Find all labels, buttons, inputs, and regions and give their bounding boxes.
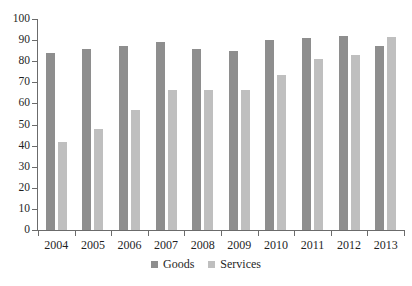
y-axis-tick (32, 82, 37, 83)
x-axis-tick (367, 231, 368, 236)
y-axis-tick-label: 30 (0, 161, 30, 172)
bar-goods-2008 (192, 49, 201, 230)
x-axis-tick-label-2010: 2010 (258, 239, 295, 252)
bar-goods-2005 (82, 49, 91, 230)
bar-services-2012 (351, 55, 360, 230)
bar-services-2005 (94, 129, 103, 230)
y-axis-tick (32, 188, 37, 189)
x-axis-tick (331, 231, 332, 236)
y-axis-tick-label: 80 (0, 55, 30, 66)
y-axis-tick-label: 20 (0, 182, 30, 193)
y-axis-tick-label: 90 (0, 34, 30, 45)
legend-item-goods[interactable]: Goods (151, 258, 194, 271)
bar-goods-2004 (46, 53, 55, 230)
bar-goods-2011 (302, 38, 311, 230)
y-axis-tick-label: 60 (0, 97, 30, 108)
x-axis-tick (258, 231, 259, 236)
bar-services-2008 (204, 90, 213, 230)
bar-services-2006 (131, 110, 140, 230)
legend-label-services: Services (220, 258, 261, 271)
y-axis-tick (32, 167, 37, 168)
bar-services-2010 (277, 75, 286, 230)
bar-services-2011 (314, 59, 323, 230)
y-axis-tick-label: 70 (0, 76, 30, 87)
x-axis-tick-label-2004: 2004 (38, 239, 75, 252)
x-axis-tick (404, 231, 405, 236)
bar-goods-2013 (375, 46, 384, 230)
goods-swatch-icon (151, 261, 158, 268)
plot-area (38, 19, 404, 230)
y-axis-tick (32, 40, 37, 41)
bar-services-2013 (387, 37, 396, 230)
y-axis-tick-label: 100 (0, 13, 30, 24)
y-axis-tick-label: 40 (0, 140, 30, 151)
bar-goods-2007 (156, 42, 165, 230)
x-axis-tick (148, 231, 149, 236)
x-axis-tick (75, 231, 76, 236)
bar-goods-2012 (339, 36, 348, 230)
bar-chart: 0102030405060708090100 20042005200620072… (0, 0, 412, 286)
y-axis-tick (32, 230, 37, 231)
y-axis-tick (32, 209, 37, 210)
y-axis-tick (32, 103, 37, 104)
x-axis-tick (111, 231, 112, 236)
services-swatch-icon (208, 261, 215, 268)
y-axis-tick-label: 50 (0, 119, 30, 130)
x-axis-tick (38, 231, 39, 236)
bar-services-2004 (58, 142, 67, 230)
legend-label-goods: Goods (163, 258, 194, 271)
y-axis-tick (32, 125, 37, 126)
x-axis-tick-label-2011: 2011 (294, 239, 331, 252)
x-axis-tick-label-2008: 2008 (184, 239, 221, 252)
chart-legend: Goods Services (0, 258, 412, 271)
y-axis-tick-label: 0 (0, 224, 30, 235)
bar-goods-2006 (119, 46, 128, 230)
x-axis-tick-label-2006: 2006 (111, 239, 148, 252)
x-axis-tick-label-2007: 2007 (148, 239, 185, 252)
y-axis-tick (32, 146, 37, 147)
x-axis-tick (221, 231, 222, 236)
legend-item-services[interactable]: Services (208, 258, 261, 271)
bar-services-2009 (241, 90, 250, 230)
bar-services-2007 (168, 90, 177, 230)
x-axis-tick-label-2009: 2009 (221, 239, 258, 252)
y-axis-tick-label: 10 (0, 203, 30, 214)
y-axis-tick (32, 19, 37, 20)
x-axis-tick-label-2012: 2012 (331, 239, 368, 252)
y-axis-tick (32, 61, 37, 62)
x-axis-tick-label-2013: 2013 (367, 239, 404, 252)
x-axis-tick (184, 231, 185, 236)
x-axis-tick-label-2005: 2005 (75, 239, 112, 252)
bar-goods-2010 (265, 40, 274, 230)
bar-goods-2009 (229, 51, 238, 230)
x-axis-tick (294, 231, 295, 236)
